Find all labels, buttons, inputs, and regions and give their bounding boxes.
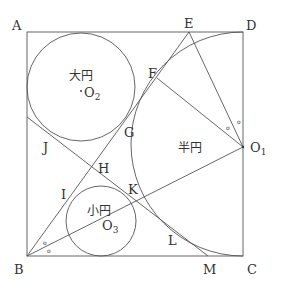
label-g: G	[124, 125, 134, 140]
label-o1: O1	[250, 140, 266, 157]
label-m: M	[203, 262, 216, 277]
angle-mark: o	[237, 118, 241, 125]
label-i: I	[61, 187, 66, 202]
label-o2: O2	[84, 85, 100, 102]
label-a: A	[11, 18, 22, 33]
label-k: K	[128, 182, 138, 197]
line-o1f	[157, 78, 243, 147]
angle-mark: o	[47, 247, 51, 254]
label-c: C	[247, 262, 257, 277]
label-semicircle: 半円	[178, 141, 202, 155]
label-e: E	[184, 16, 194, 31]
square-abcd	[27, 32, 243, 256]
line-jm	[27, 117, 208, 256]
small-circle	[66, 186, 136, 256]
angle-mark: o	[226, 124, 230, 131]
label-h: H	[98, 161, 109, 176]
large-circle	[27, 33, 135, 141]
label-large-circle: 大円	[69, 69, 93, 83]
label-d: D	[246, 18, 256, 33]
label-small-circle: 小円	[87, 204, 111, 218]
geometry-diagram: o o o o A B C D E F G H I J K L M O1 O2 …	[0, 0, 282, 293]
label-l: L	[168, 233, 177, 248]
label-f: F	[148, 66, 157, 81]
label-b: B	[14, 262, 24, 277]
label-j: J	[41, 140, 48, 155]
line-o1e	[189, 32, 243, 147]
center-o1-dot	[242, 146, 244, 148]
center-o2-dot	[80, 90, 82, 92]
label-o3: O3	[102, 218, 119, 235]
angle-mark: o	[43, 239, 47, 246]
line-bo1	[27, 147, 243, 256]
